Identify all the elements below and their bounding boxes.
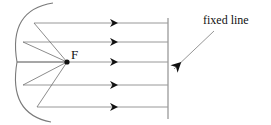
focus-point <box>64 59 69 64</box>
focus-label: F <box>71 48 78 61</box>
reflected-ray <box>37 62 67 107</box>
diagram-canvas: F fixed line <box>0 0 271 125</box>
incoming-rays <box>17 23 168 107</box>
reflected-ray <box>34 23 67 62</box>
fixed-line-label: fixed line <box>203 14 249 26</box>
ray-direction-arrow-icons <box>110 23 126 107</box>
reflected-rays <box>17 23 67 107</box>
fixed-line-callout-arrow-icon <box>174 31 214 69</box>
reflected-ray <box>23 42 67 62</box>
parabola-curve <box>15 3 53 122</box>
reflected-ray <box>23 62 67 85</box>
